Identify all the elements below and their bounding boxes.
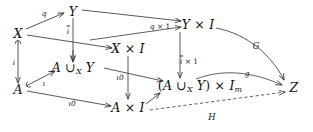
arrow-AUXY-to-AUXYIm	[104, 68, 163, 81]
node-A-union-X-Y-times-Im: (A ∪X Y) × Im	[158, 78, 242, 94]
arrow-A-to-AUXY	[26, 71, 55, 86]
edge-label-G: G	[253, 41, 260, 51]
edge-label-i-bar: i	[67, 27, 69, 36]
edge-label-iota: ι	[43, 79, 46, 88]
arrow-X-to-XI	[27, 35, 112, 48]
edge-label-q: q	[42, 9, 47, 18]
edge-label-iota-zero-lower: ι0	[68, 99, 76, 108]
node-X: X	[13, 26, 22, 41]
node-A: A	[13, 82, 22, 97]
edge-label-g: g	[245, 69, 250, 78]
node-Y: Y	[69, 4, 77, 19]
node-X-times-I: X × I	[111, 41, 144, 56]
node-A-union-X-Y: A ∪X Y	[52, 60, 94, 76]
edge-label-iota-zero-upper: ι0	[116, 73, 124, 82]
edge-label-i: i	[13, 58, 15, 67]
diagram-arrows-layer	[0, 0, 313, 132]
edge-label-H: H	[208, 112, 215, 122]
edge-label-q-times-1: q × 1	[150, 22, 170, 31]
commutative-diagram: X Y X × I Y × I A A ∪X Y A × I (A ∪X Y) …	[0, 0, 313, 132]
node-Z: Z	[290, 80, 299, 95]
node-A-times-I: A × I	[111, 100, 144, 115]
arrow-YI-to-Z	[216, 28, 284, 80]
arrow-AI-to-Z	[150, 92, 285, 110]
arrow-AI-to-AUXYIm	[146, 93, 160, 104]
edge-label-i-bar-times-1: i × 1	[180, 57, 198, 66]
node-Y-times-I: Y × I	[182, 17, 215, 32]
arrow-Y-to-YI	[82, 10, 181, 21]
